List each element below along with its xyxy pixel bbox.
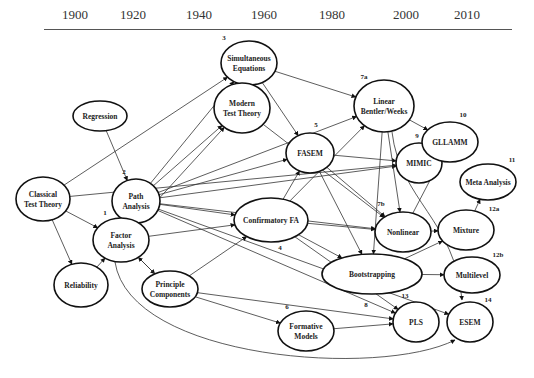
node-gllamm: GLLAMM10	[422, 111, 478, 162]
node-label: Simultaneous	[227, 54, 270, 63]
node-number: 5	[314, 121, 318, 129]
node-label: FASEM	[297, 149, 323, 158]
node-number: 3	[222, 34, 226, 42]
node-pls: PLS13	[393, 292, 439, 342]
node-ellipse	[214, 83, 270, 133]
node-label: Multilevel	[456, 271, 489, 280]
node-number: 10	[460, 111, 468, 119]
node-label: Components	[150, 290, 191, 299]
node-label: Modern	[229, 99, 256, 108]
sem-history-diagram: RegressionClassicalTest TheoryPathAnalys…	[0, 0, 534, 378]
node-label: Test Theory	[24, 200, 62, 209]
node-label: Principle	[155, 280, 185, 289]
node-number: 4	[278, 244, 282, 252]
node-reliability: Reliability	[54, 263, 108, 307]
node-esem: ESEM14	[447, 296, 493, 342]
edge-path-to-modern	[153, 126, 222, 186]
node-ellipse	[142, 271, 198, 307]
edge-principle-to-formative	[195, 297, 280, 323]
node-principle: PrincipleComponents	[142, 271, 198, 307]
node-number: 2	[122, 168, 126, 176]
node-label: ESEM	[459, 318, 480, 327]
edge-formative-to-pls	[334, 324, 393, 329]
edge-principle-to-factor	[138, 257, 155, 274]
node-label: Meta Analysis	[465, 178, 510, 187]
node-number: 7a	[361, 73, 369, 81]
nodes: RegressionClassicalTest TheoryPathAnalys…	[16, 34, 516, 351]
node-mixture: Mixture12a	[438, 205, 500, 250]
edge-reliability-to-factor	[97, 258, 105, 267]
node-regression: Regression	[73, 101, 127, 131]
node-linear: LinearBentler/Weeks7a	[354, 73, 414, 132]
node-label: Mixture	[453, 226, 480, 235]
edge-principle-to-cfa	[189, 237, 247, 276]
node-label: Confirmatory FA	[243, 216, 299, 225]
node-label: Reliability	[64, 281, 98, 290]
node-number: 13	[402, 292, 410, 300]
node-bootstrapping: Bootstrapping8	[322, 254, 422, 309]
node-label: Equations	[233, 64, 266, 73]
node-ellipse	[93, 218, 149, 262]
node-label: Models	[294, 332, 317, 341]
node-label: Bentler/Weeks	[361, 107, 408, 116]
node-number: 1	[103, 209, 107, 217]
node-number: 11	[509, 156, 516, 164]
edge-linear-to-gllamm	[409, 120, 427, 130]
node-label: Formative	[289, 322, 323, 331]
node-ellipse	[16, 177, 70, 221]
node-label: Factor	[110, 231, 132, 240]
edge-simultaneous-to-linear	[275, 71, 356, 97]
node-label: Classical	[29, 190, 57, 199]
node-number: 9	[415, 132, 419, 140]
node-classical: ClassicalTest Theory	[16, 177, 70, 221]
edge-mixture-to-meta	[475, 199, 480, 211]
node-ellipse	[221, 41, 277, 85]
node-number: 12b	[493, 251, 504, 259]
node-label: Nonlinear	[387, 228, 420, 237]
node-label: Analysis	[122, 202, 149, 211]
node-number: 8	[364, 301, 368, 309]
node-nonlinear: Nonlinear7b	[375, 200, 431, 252]
node-cfa: Confirmatory FA4	[234, 198, 308, 252]
node-ellipse	[354, 80, 414, 132]
node-number: 6	[285, 303, 289, 311]
node-label: Test Theory	[223, 109, 261, 118]
node-number: 12a	[489, 205, 500, 213]
node-label: PLS	[409, 318, 423, 327]
node-modern: ModernTest Theory	[214, 83, 270, 133]
edge-factor-to-cfa	[149, 225, 235, 237]
node-label: Regression	[83, 112, 119, 121]
node-label: MIMIC	[406, 159, 431, 168]
node-ellipse	[278, 311, 334, 351]
node-label: Bootstrapping	[349, 270, 395, 279]
node-multilevel: Multilevel12b	[444, 251, 504, 293]
node-number: 7b	[377, 200, 385, 208]
edge-fasem-to-mimic	[334, 155, 396, 161]
edge-classical-to-simultaneous	[64, 77, 228, 185]
edge-path-to-mimic	[160, 166, 397, 198]
node-label: Analysis	[107, 241, 134, 250]
node-label: GLLAMM	[432, 138, 467, 147]
node-simultaneous: SimultaneousEquations3	[221, 34, 277, 85]
node-meta: Meta Analysis11	[460, 156, 516, 200]
node-label: Linear	[373, 97, 395, 106]
edge-cfa-to-nonlinear	[308, 223, 376, 229]
edge-classical-to-factor	[66, 211, 98, 228]
node-label: Path	[129, 192, 145, 201]
node-path: PathAnalysis2	[112, 168, 160, 223]
node-ellipse	[112, 179, 160, 223]
edge-classical-to-reliability	[52, 220, 72, 265]
node-number: 14	[485, 296, 493, 304]
